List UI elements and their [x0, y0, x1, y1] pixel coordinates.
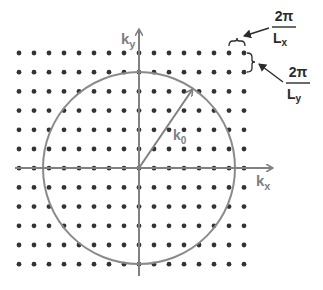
lattice-point — [182, 147, 187, 152]
spacing-y-numerator: 2π — [289, 64, 308, 80]
lattice-point — [62, 185, 67, 190]
lattice-point — [182, 204, 187, 209]
lattice-point — [227, 70, 232, 75]
lattice-point — [32, 108, 37, 113]
lattice-point — [107, 51, 112, 56]
lattice-point — [62, 204, 67, 209]
lattice-point — [32, 89, 37, 94]
lattice-point — [92, 108, 97, 113]
lattice-point — [152, 108, 157, 113]
lattice-point — [152, 51, 157, 56]
lattice-point — [242, 262, 247, 267]
lattice-point — [197, 108, 202, 113]
lattice-point — [77, 70, 82, 75]
lattice-point — [62, 243, 67, 248]
spacing-y-denominator: Ly — [287, 86, 302, 104]
lattice-point — [107, 243, 112, 248]
lattice-point — [152, 89, 157, 94]
spacing-y-fraction: 2π Ly — [286, 64, 310, 104]
kx-axis-label: kx — [256, 172, 271, 192]
lattice-point — [227, 108, 232, 113]
lattice-point — [212, 185, 217, 190]
lattice-point — [167, 70, 172, 75]
lattice-point — [77, 262, 82, 267]
lattice-point — [17, 147, 22, 152]
lattice-point — [62, 262, 67, 267]
lattice-point — [212, 262, 217, 267]
lattice-point — [197, 51, 202, 56]
lattice-point — [77, 204, 82, 209]
lattice-point — [122, 204, 127, 209]
lattice-point — [242, 108, 247, 113]
lattice-point — [182, 70, 187, 75]
spacing-y-pointer — [259, 64, 283, 82]
lattice-point — [47, 262, 52, 267]
lattice-point — [182, 51, 187, 56]
lattice-point — [152, 204, 157, 209]
lattice-point — [47, 51, 52, 56]
lattice-point — [227, 147, 232, 152]
lattice-point — [107, 223, 112, 228]
spacing-x-brace — [229, 38, 245, 46]
lattice-point — [227, 185, 232, 190]
lattice-point — [122, 51, 127, 56]
lattice-point — [122, 89, 127, 94]
lattice-point — [17, 89, 22, 94]
lattice-point — [197, 185, 202, 190]
lattice-point — [212, 204, 217, 209]
lattice-point — [107, 108, 112, 113]
lattice-point — [182, 262, 187, 267]
lattice-point — [152, 185, 157, 190]
lattice-point — [182, 223, 187, 228]
lattice-point — [122, 243, 127, 248]
lattice-point — [122, 185, 127, 190]
ky-axis-label: ky — [121, 30, 136, 50]
lattice-point — [32, 70, 37, 75]
lattice-point — [107, 70, 112, 75]
lattice-point — [92, 51, 97, 56]
lattice-point — [17, 70, 22, 75]
lattice-point — [167, 204, 172, 209]
lattice-point — [242, 127, 247, 132]
lattice-point — [107, 262, 112, 267]
lattice-point — [77, 108, 82, 113]
lattice-point — [92, 185, 97, 190]
lattice-point — [32, 127, 37, 132]
lattice-point — [122, 108, 127, 113]
lattice-point — [17, 243, 22, 248]
lattice-point — [242, 185, 247, 190]
lattice-point — [212, 127, 217, 132]
lattice-point — [182, 127, 187, 132]
spacing-x-fraction: 2π Lx — [272, 8, 296, 48]
lattice-point — [122, 223, 127, 228]
lattice-point — [17, 51, 22, 56]
lattice-point — [167, 51, 172, 56]
lattice-point — [167, 243, 172, 248]
lattice-point — [182, 89, 187, 94]
spacing-y-brace — [247, 53, 255, 72]
lattice-point — [167, 127, 172, 132]
lattice-point — [107, 185, 112, 190]
lattice-point — [197, 70, 202, 75]
lattice-point — [17, 262, 22, 267]
lattice-point — [92, 127, 97, 132]
lattice-point — [77, 147, 82, 152]
lattice-point — [32, 223, 37, 228]
lattice-point — [212, 147, 217, 152]
lattice-point — [77, 185, 82, 190]
lattice-point — [32, 243, 37, 248]
spacing-x-denominator: Lx — [273, 30, 288, 48]
lattice-point — [122, 127, 127, 132]
lattice-point — [227, 51, 232, 56]
lattice-point — [77, 51, 82, 56]
lattice-point — [17, 223, 22, 228]
lattice-point — [227, 243, 232, 248]
lattice-point — [167, 108, 172, 113]
lattice-point — [242, 147, 247, 152]
lattice-point — [32, 185, 37, 190]
lattice-point — [197, 204, 202, 209]
lattice-point — [107, 89, 112, 94]
lattice-point — [197, 223, 202, 228]
lattice-point — [167, 147, 172, 152]
lattice-point — [62, 127, 67, 132]
